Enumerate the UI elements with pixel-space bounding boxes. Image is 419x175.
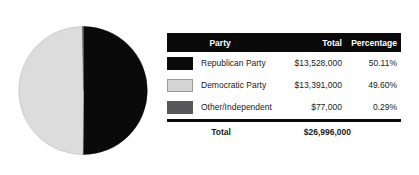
party-label: Other/Independent — [201, 102, 272, 112]
percentage-cell: 49.60% — [347, 80, 401, 90]
total-cell: $13,391,000 — [273, 80, 347, 90]
party-cell: Democratic Party — [167, 79, 273, 92]
column-header-party: Party — [167, 38, 273, 48]
legend-data-table: Party Total Percentage Republican Party … — [167, 33, 401, 142]
percentage-cell: 0.29% — [347, 102, 401, 112]
legend-swatch-republican — [167, 57, 193, 70]
total-cell: $13,528,000 — [273, 58, 347, 68]
party-cell: Other/Independent — [167, 101, 273, 114]
total-cell: $77,000 — [273, 102, 347, 112]
pie-chart-svg — [18, 25, 149, 156]
total-amount: $26,996,000 — [275, 127, 351, 137]
table-row: Other/Independent $77,000 0.29% — [167, 96, 401, 118]
pie-slice-democratic — [19, 27, 84, 155]
party-cell: Republican Party — [167, 57, 273, 70]
party-label: Republican Party — [201, 58, 266, 68]
pie-chart — [18, 25, 149, 156]
legend-swatch-other — [167, 101, 193, 114]
pie-slice-republican — [83, 27, 147, 155]
party-label: Democratic Party — [201, 80, 266, 90]
percentage-cell: 50.11% — [347, 58, 401, 68]
column-header-total: Total — [273, 38, 347, 48]
table-footer-row: Total $26,996,000 — [167, 122, 401, 142]
table-row: Republican Party $13,528,000 50.11% — [167, 52, 401, 74]
legend-swatch-democratic — [167, 79, 193, 92]
column-header-percentage: Percentage — [347, 38, 401, 48]
table-header-row: Party Total Percentage — [167, 33, 401, 52]
total-label: Total — [167, 127, 275, 137]
table-row: Democratic Party $13,391,000 49.60% — [167, 74, 401, 96]
